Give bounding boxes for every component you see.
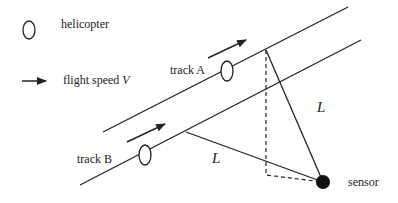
helicopter-b-icon — [139, 145, 151, 165]
sensor-label: sensor — [348, 176, 379, 188]
track-a-speed-arrow-icon — [208, 40, 246, 58]
flight-speed-symbol: V — [122, 73, 129, 87]
distance-line-b — [186, 132, 323, 182]
diagram-canvas — [0, 0, 398, 203]
flight-speed-text: flight speed — [63, 73, 119, 87]
legend-helicopter-label: helicopter — [61, 18, 109, 30]
distance-line-a — [266, 50, 323, 182]
distance-label-b: L — [212, 151, 220, 166]
track-a-label: track A — [170, 64, 205, 76]
track-b-speed-arrow-icon — [127, 124, 165, 142]
helicopter-legend-icon — [23, 21, 35, 39]
sensor-dot-icon — [316, 175, 330, 189]
helicopter-a-icon — [221, 61, 233, 81]
track-b-label: track B — [77, 153, 112, 165]
legend-flight-speed-label: flight speed V — [63, 74, 130, 86]
distance-label-a: L — [317, 100, 325, 115]
